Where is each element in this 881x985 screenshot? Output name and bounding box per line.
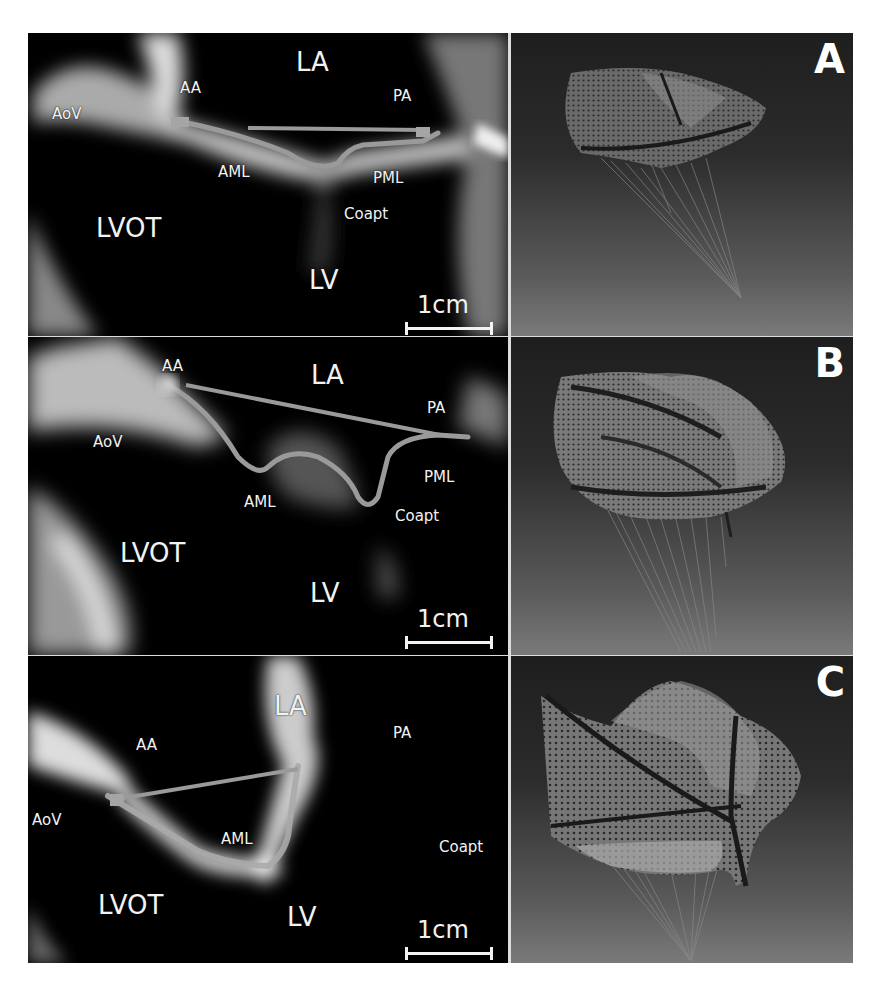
label-aov: AoV [32, 813, 61, 828]
scale-label: 1cm [417, 918, 469, 942]
label-pa: PA [393, 89, 411, 104]
label-coapt: Coapt [395, 509, 439, 524]
echo-image-c: LA PA AA AoV AML Coapt LVOT LV 1cm [28, 656, 508, 963]
mesh-render-a: A [511, 33, 853, 336]
mesh-render-c: C [511, 656, 853, 963]
figure: LA AA PA AoV AML PML Coapt LVOT LV 1cm [28, 33, 853, 963]
label-aov: AoV [52, 107, 81, 122]
label-la: LA [274, 693, 307, 719]
label-aml: AML [244, 495, 276, 510]
panel-letter-c: C [816, 662, 845, 702]
scale-bar-line [405, 641, 493, 644]
label-lvot: LVOT [98, 892, 163, 918]
scale-bar-line [405, 952, 493, 955]
label-aa: AA [180, 81, 201, 96]
label-lvot: LVOT [96, 215, 161, 241]
label-lv: LV [310, 580, 339, 606]
label-pa: PA [393, 726, 411, 741]
label-aa: AA [162, 359, 183, 374]
panel-letter-a: A [814, 39, 845, 79]
panel-row-b: AA LA PA AoV PML AML Coapt LVOT LV 1cm [28, 337, 853, 655]
valve-mesh-graphic-a [511, 33, 853, 336]
echo-image-a: LA AA PA AoV AML PML Coapt LVOT LV 1cm [28, 33, 508, 336]
label-aa: AA [136, 738, 157, 753]
label-aml: AML [221, 832, 253, 847]
label-la: LA [296, 49, 329, 75]
label-coapt: Coapt [344, 207, 388, 222]
label-aml: AML [218, 165, 250, 180]
valve-mesh-graphic-c [511, 656, 853, 963]
valve-mesh-graphic-b [511, 337, 853, 655]
label-lv: LV [309, 267, 338, 293]
echo-image-b: AA LA PA AoV PML AML Coapt LVOT LV 1cm [28, 337, 508, 655]
label-pml: PML [424, 470, 454, 485]
label-lv: LV [287, 904, 316, 930]
label-la: LA [311, 362, 344, 388]
label-aov: AoV [93, 435, 122, 450]
label-lvot: LVOT [120, 540, 185, 566]
panel-letter-b: B [815, 343, 846, 383]
scale-label: 1cm [417, 607, 469, 631]
panel-row-c: LA PA AA AoV AML Coapt LVOT LV 1cm [28, 656, 853, 963]
label-coapt: Coapt [439, 840, 483, 855]
label-pml: PML [373, 171, 403, 186]
scale-label: 1cm [417, 293, 469, 317]
label-pa: PA [427, 401, 445, 416]
mesh-render-b: B [511, 337, 853, 655]
panel-row-a: LA AA PA AoV AML PML Coapt LVOT LV 1cm [28, 33, 853, 336]
scale-bar-line [405, 327, 493, 330]
